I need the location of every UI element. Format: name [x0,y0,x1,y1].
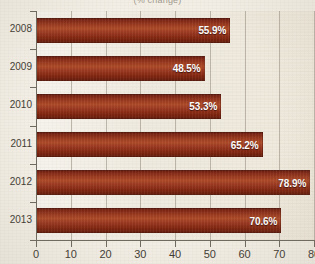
gridline-30 [140,11,141,240]
gridline-50 [210,11,211,240]
category-label-2009: 2009 [0,61,32,72]
chart-title: (% change) [0,0,315,5]
bar-fill [36,132,263,157]
gridline-80 [314,11,315,240]
bar-2012[interactable]: 78.9% [36,170,310,195]
bar-fill [36,208,281,233]
bar-value-label-2008: 55.9% [198,25,226,36]
bar-2010[interactable]: 53.3% [36,94,221,119]
value-tick-label-60: 60 [238,248,250,260]
value-tick-10 [71,241,72,247]
value-tick-30 [140,241,141,247]
bar-fill [36,170,310,195]
value-tick-20 [106,241,107,247]
value-tick-40 [175,241,176,247]
bar-2009[interactable]: 48.5% [36,56,205,81]
bar-2008[interactable]: 55.9% [36,18,230,43]
gridline-70 [279,11,280,240]
value-tick-label-20: 20 [99,248,111,260]
value-tick-80 [314,241,315,247]
category-label-2008: 2008 [0,23,32,34]
bar-value-label-2013: 70.6% [249,215,277,226]
bar-value-label-2010: 53.3% [189,101,217,112]
category-label-2012: 2012 [0,176,32,187]
value-tick-50 [210,241,211,247]
value-axis-line [36,240,315,241]
value-tick-label-80: 80 [308,248,315,260]
category-label-2010: 2010 [0,99,32,110]
bar-value-label-2009: 48.5% [173,63,201,74]
bar-chart: (% change) 55.9%200848.5%200953.3%201065… [0,0,315,264]
value-tick-label-0: 0 [33,248,39,260]
value-tick-label-50: 50 [204,248,216,260]
category-label-2011: 2011 [0,138,32,149]
gridline-40 [175,11,176,240]
value-tick-70 [279,241,280,247]
bar-2011[interactable]: 65.2% [36,132,263,157]
gridline-60 [245,11,246,240]
value-tick-label-40: 40 [169,248,181,260]
gridline-20 [106,11,107,240]
category-axis-line [36,11,37,241]
gridline-10 [71,11,72,240]
bar-value-label-2012: 78.9% [278,177,306,188]
value-tick-0 [36,241,37,247]
category-label-2013: 2013 [0,214,32,225]
value-tick-label-70: 70 [273,248,285,260]
value-tick-label-30: 30 [134,248,146,260]
value-tick-label-10: 10 [65,248,77,260]
value-tick-60 [245,241,246,247]
bar-2013[interactable]: 70.6% [36,208,281,233]
bar-value-label-2011: 65.2% [231,139,259,150]
